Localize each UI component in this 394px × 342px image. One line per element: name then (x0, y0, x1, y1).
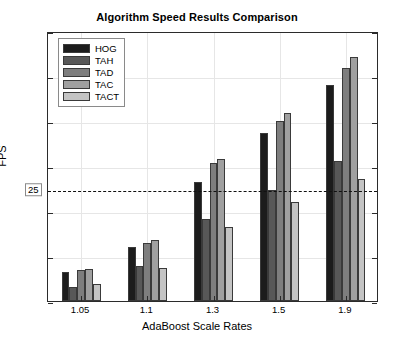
x-tick-mark (214, 296, 215, 301)
bar-HOG-1.5 (260, 133, 268, 301)
x-tick-label-1.3: 1.3 (206, 304, 219, 315)
bar-HOG-1.05 (62, 272, 70, 301)
chart-legend: HOGTAHTADTACTACT (58, 38, 125, 107)
bar-TAH-1.9 (334, 161, 342, 301)
threshold-line (48, 191, 377, 192)
legend-item-HOG: HOG (63, 43, 119, 54)
legend-item-TAD: TAD (63, 67, 119, 78)
legend-swatch-TAC (63, 80, 90, 89)
legend-swatch-HOG (63, 44, 90, 53)
y-tick-mark (48, 168, 53, 169)
y-tick-mark (48, 258, 53, 259)
bar-TACT-1.3 (225, 227, 233, 301)
x-axis-label: AdaBoost Scale Rates (0, 320, 394, 332)
y-tick-mark-right (372, 258, 377, 259)
chart-title: Algorithm Speed Results Comparison (0, 11, 394, 23)
bar-TAC-1.1 (151, 240, 159, 301)
threshold-tick-label: 25 (25, 183, 42, 197)
bar-TAH-1.05 (69, 287, 77, 301)
legend-swatch-TAD (63, 68, 90, 77)
bar-HOG-1.3 (194, 182, 202, 301)
x-tick-mark (147, 296, 148, 301)
bar-TAC-1.05 (85, 269, 93, 301)
y-tick-mark (48, 78, 53, 79)
bar-TAD-1.5 (276, 121, 284, 301)
legend-label-TAH: TAH (95, 56, 113, 66)
x-tick-label-1.9: 1.9 (338, 304, 351, 315)
x-tick-label-1.05: 1.05 (71, 304, 90, 315)
bar-TAC-1.3 (217, 159, 225, 301)
bar-HOG-1.9 (326, 85, 334, 301)
legend-swatch-TACT (63, 92, 90, 101)
legend-label-HOG: HOG (95, 44, 117, 54)
legend-label-TACT: TACT (95, 92, 119, 102)
y-tick-mark (48, 33, 53, 34)
legend-item-TAC: TAC (63, 79, 119, 90)
legend-item-TACT: TACT (63, 91, 119, 102)
x-tick-label-1.5: 1.5 (272, 304, 285, 315)
bar-TACT-1.05 (93, 284, 101, 301)
bar-TAC-1.9 (350, 57, 358, 301)
legend-label-TAC: TAC (95, 80, 113, 90)
y-tick-mark-right (372, 33, 377, 34)
y-tick-mark (48, 123, 53, 124)
bar-TAH-1.3 (202, 219, 210, 301)
y-tick-mark-right (372, 123, 377, 124)
x-tick-mark (280, 296, 281, 301)
bar-TACT-1.1 (159, 268, 167, 301)
y-tick-mark-right (372, 168, 377, 169)
x-tick-mark (346, 296, 347, 301)
bar-TAD-1.9 (342, 68, 350, 301)
y-tick-mark (48, 213, 53, 214)
bar-TAH-1.5 (268, 190, 276, 301)
bar-TAC-1.5 (284, 113, 292, 301)
bar-TAD-1.1 (143, 243, 151, 302)
y-tick-mark (48, 303, 53, 304)
legend-item-TAH: TAH (63, 55, 119, 66)
chart-figure: Algorithm Speed Results Comparison FPS A… (0, 0, 394, 342)
x-tick-mark (81, 296, 82, 301)
bar-TAH-1.1 (136, 266, 144, 301)
y-tick-mark-right (372, 78, 377, 79)
bar-HOG-1.1 (128, 247, 136, 301)
bar-TACT-1.9 (358, 179, 366, 301)
legend-label-TAD: TAD (95, 68, 113, 78)
legend-swatch-TAH (63, 56, 90, 65)
y-axis-label: FPS (0, 145, 8, 166)
y-tick-mark-right (372, 303, 377, 304)
bar-TACT-1.5 (291, 202, 299, 301)
bar-TAD-1.3 (210, 163, 218, 301)
y-tick-mark-right (372, 213, 377, 214)
x-tick-label-1.1: 1.1 (140, 304, 153, 315)
